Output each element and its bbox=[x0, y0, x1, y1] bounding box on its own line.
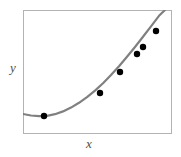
plot-canvas bbox=[0, 0, 181, 157]
data-point bbox=[153, 28, 159, 34]
curve-group bbox=[23, 10, 165, 116]
data-point-group bbox=[41, 28, 159, 119]
data-point bbox=[140, 44, 146, 50]
y-axis-label: y bbox=[10, 61, 16, 74]
data-point bbox=[117, 69, 123, 75]
fitted-curve bbox=[23, 10, 165, 116]
data-point bbox=[134, 51, 140, 57]
data-point bbox=[97, 90, 103, 96]
figure-screenshot: y x bbox=[0, 0, 181, 157]
data-point bbox=[41, 113, 47, 119]
x-axis-label: x bbox=[86, 137, 92, 150]
